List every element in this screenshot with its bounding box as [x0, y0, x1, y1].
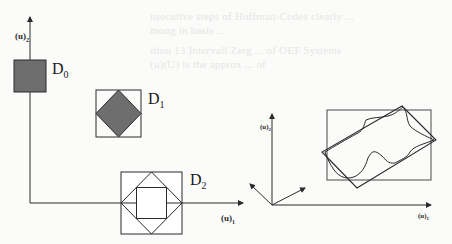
- domain-d1-label: D1: [148, 90, 165, 110]
- left-x-axis-label: (u)1: [221, 213, 235, 225]
- irregular-region-curve: [325, 107, 434, 178]
- domain-d1-diamond: [96, 90, 141, 137]
- basis-vector-upper-right: [272, 188, 305, 205]
- domain-d0-label: D0: [52, 60, 69, 80]
- figure-canvas: nsecutive steps of Huffman-Codes clearly…: [0, 0, 452, 244]
- domain-d0-square: [14, 60, 46, 92]
- basis-vector-upper-left: [250, 184, 272, 205]
- domain-d2-label: D2: [190, 171, 207, 191]
- left-panel: (u)2 (u)1 D0 D1 D: [14, 17, 243, 234]
- right-x-axis-label: (u)1: [418, 212, 430, 221]
- axis-aligned-bounding-rectangle: [327, 110, 431, 180]
- right-y-axis-label: (u)2: [260, 123, 272, 132]
- left-y-axis-label: (u)2: [15, 31, 29, 43]
- right-panel: (u)2 (u)1: [250, 106, 436, 221]
- diagram-svg: (u)2 (u)1 D0 D1 D: [0, 0, 452, 244]
